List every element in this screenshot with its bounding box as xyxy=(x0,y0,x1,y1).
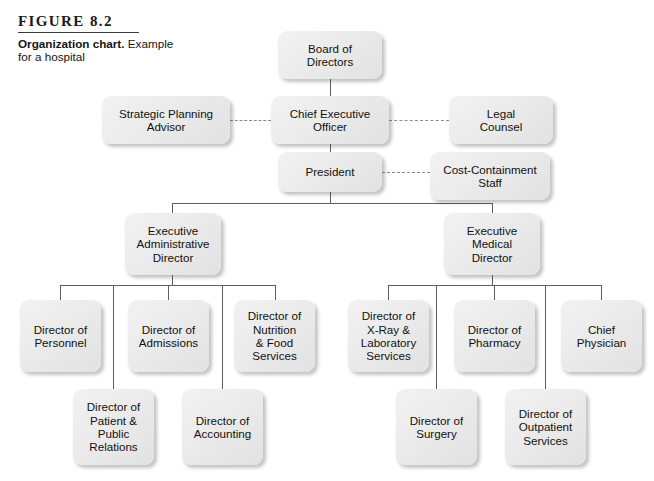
node-label: President xyxy=(303,165,358,178)
node-label: Director of Patient & Public Relations xyxy=(84,400,143,454)
node-director-of-accounting[interactable]: Director of Accounting xyxy=(182,389,263,465)
connector-bus-executives xyxy=(172,203,492,204)
node-director-of-xray-and-laboratory-services[interactable]: Director of X-Ray & Laboratory Services xyxy=(348,300,429,372)
node-label: Executive Administrative Director xyxy=(134,224,213,264)
node-director-of-nutrition-and-food-services[interactable]: Director of Nutrition & Food Services xyxy=(234,300,315,372)
connector-exec-admin-down xyxy=(172,275,173,285)
connector-drop-outpatient xyxy=(545,285,546,389)
node-strategic-planning-advisor[interactable]: Strategic Planning Advisor xyxy=(102,96,230,144)
node-label: Director of Nutrition & Food Services xyxy=(245,309,304,363)
node-label: Director of Outpatient Services xyxy=(516,407,576,447)
node-label: Chief Executive Officer xyxy=(287,107,374,134)
connector-drop-xray xyxy=(388,285,389,300)
node-director-of-pharmacy[interactable]: Director of Pharmacy xyxy=(454,300,535,372)
node-label: Legal Counsel xyxy=(477,107,526,134)
node-director-of-personnel[interactable]: Director of Personnel xyxy=(20,300,101,372)
figure-caption-text: Organization chart. Example for a hospit… xyxy=(18,37,188,64)
node-president[interactable]: President xyxy=(278,152,382,192)
connector-ceo-legal xyxy=(389,120,449,121)
connector-bus-right xyxy=(388,285,602,286)
node-label: Chief Physician xyxy=(574,323,630,350)
connector-bus-exec-med xyxy=(492,203,493,213)
node-cost-containment-staff[interactable]: Cost-Containment Staff xyxy=(430,152,550,200)
node-label: Director of Accounting xyxy=(191,414,254,441)
connector-drop-patient-relations xyxy=(113,285,114,389)
connector-drop-accounting xyxy=(222,285,223,389)
connector-drop-nutrition xyxy=(275,285,276,300)
connector-advisor-ceo xyxy=(230,120,271,121)
connector-drop-admissions xyxy=(168,285,169,300)
connector-ceo-president xyxy=(330,144,331,152)
node-executive-medical-director[interactable]: Executive Medical Director xyxy=(444,213,540,275)
node-label: Director of X-Ray & Laboratory Services xyxy=(358,309,419,363)
node-label: Strategic Planning Advisor xyxy=(116,107,216,134)
node-chief-executive-officer[interactable]: Chief Executive Officer xyxy=(271,96,389,144)
connector-president-bus xyxy=(330,192,331,203)
node-board-of-directors[interactable]: Board of Directors xyxy=(278,31,382,79)
connector-drop-personnel xyxy=(60,285,61,300)
node-legal-counsel[interactable]: Legal Counsel xyxy=(449,96,553,144)
node-chief-physician[interactable]: Chief Physician xyxy=(561,300,642,372)
connector-exec-med-down xyxy=(492,275,493,285)
node-label: Director of Pharmacy xyxy=(465,323,524,350)
node-director-of-admissions[interactable]: Director of Admissions xyxy=(128,300,209,372)
connector-drop-pharmacy xyxy=(494,285,495,300)
connector-board-ceo xyxy=(330,79,331,96)
node-label: Board of Directors xyxy=(304,42,356,69)
node-label: Cost-Containment Staff xyxy=(440,163,539,190)
connector-president-cost-containment xyxy=(382,172,430,173)
node-label: Director of Personnel xyxy=(31,323,90,350)
node-label: Executive Medical Director xyxy=(464,224,520,264)
figure-caption: FIGURE 8.2 Organization chart. Example f… xyxy=(18,12,233,64)
node-director-of-outpatient-services[interactable]: Director of Outpatient Services xyxy=(505,389,586,465)
node-label: Director of Surgery xyxy=(407,414,466,441)
figure-title: Organization chart. xyxy=(18,37,125,50)
node-label: Director of Admissions xyxy=(136,323,201,350)
node-director-of-surgery[interactable]: Director of Surgery xyxy=(396,389,477,465)
figure-number: FIGURE 8.2 xyxy=(18,14,139,33)
connector-bus-exec-admin xyxy=(172,203,173,213)
node-director-of-patient-and-public-relations[interactable]: Director of Patient & Public Relations xyxy=(73,389,154,465)
connector-drop-chief-physician xyxy=(601,285,602,300)
node-executive-administrative-director[interactable]: Executive Administrative Director xyxy=(125,213,221,275)
connector-drop-surgery xyxy=(436,285,437,389)
organization-chart-figure: FIGURE 8.2 Organization chart. Example f… xyxy=(0,0,654,481)
